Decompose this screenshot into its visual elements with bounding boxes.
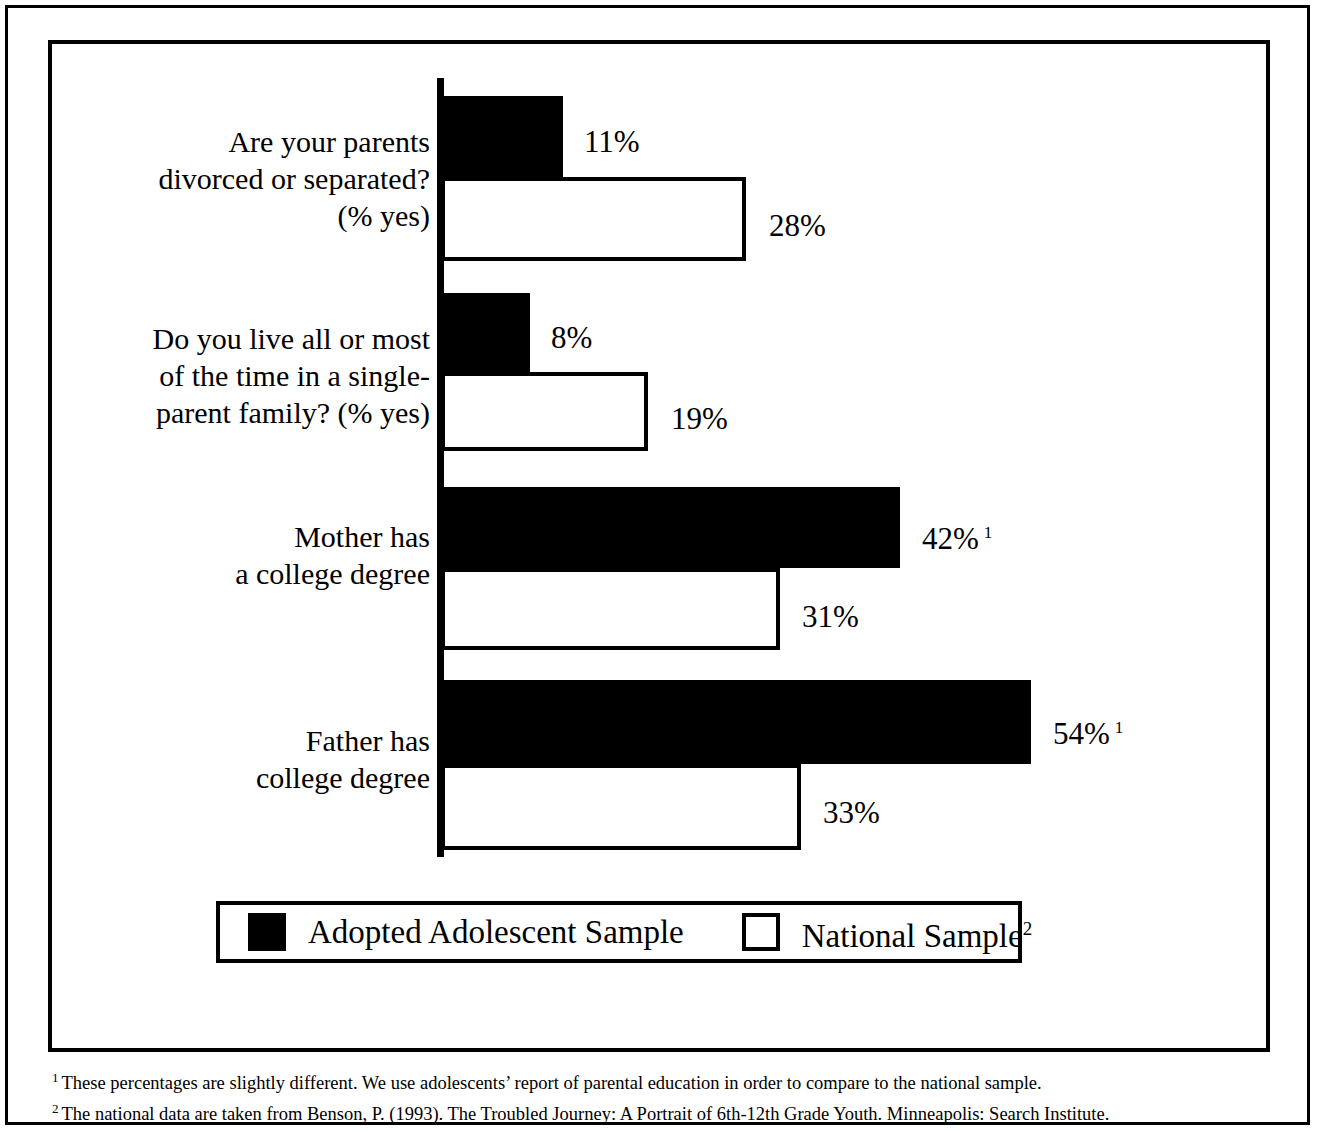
footnote-text: These percentages are slightly different… bbox=[62, 1073, 1042, 1093]
footnotes-block: 1These percentages are slightly differen… bbox=[52, 1065, 1302, 1127]
legend-label-national: National Sample2 bbox=[802, 912, 1032, 953]
category-label-line: parent family? (% yes) bbox=[100, 394, 430, 431]
bar-value-national-mother-college-degree: 31% bbox=[802, 601, 859, 632]
legend-item-adopted-adolescent-sample: Adopted Adolescent Sample bbox=[248, 913, 684, 951]
footnote-text: The national data are taken from Benson,… bbox=[62, 1104, 1110, 1124]
category-label-line: Do you live all or most bbox=[100, 320, 430, 357]
bar-value-text: 54% bbox=[1053, 716, 1110, 751]
bar-value-adopted-parents-divorced: 11% bbox=[584, 126, 640, 157]
bar-national-single-parent-family bbox=[441, 372, 648, 451]
category-label-line: Father has bbox=[100, 722, 430, 759]
category-label-line: Mother has bbox=[100, 518, 430, 555]
bar-value-adopted-single-parent-family: 8% bbox=[551, 322, 592, 353]
footnote-marker: 2 bbox=[52, 1101, 59, 1116]
bar-adopted-parents-divorced bbox=[441, 96, 563, 177]
legend-swatch-filled-icon bbox=[248, 913, 286, 951]
category-label-line: of the time in a single- bbox=[100, 357, 430, 394]
footnote-marker: 1 bbox=[1115, 718, 1124, 737]
bar-value-national-single-parent-family: 19% bbox=[671, 403, 728, 434]
footnote-1: 1These percentages are slightly differen… bbox=[52, 1065, 1302, 1096]
category-label-line: divorced or separated? bbox=[100, 160, 430, 197]
legend-item-national-sample: National Sample2 bbox=[742, 912, 1032, 953]
bar-value-adopted-mother-college-degree: 42%1 bbox=[922, 517, 992, 554]
category-label-line: a college degree bbox=[100, 555, 430, 592]
legend-label-adopted: Adopted Adolescent Sample bbox=[308, 916, 684, 949]
bar-value-adopted-father-college-degree: 54%1 bbox=[1053, 712, 1123, 749]
legend-swatch-hollow-icon bbox=[742, 913, 780, 951]
bar-adopted-mother-college-degree bbox=[441, 487, 900, 568]
bar-value-national-father-college-degree: 33% bbox=[823, 797, 880, 828]
footnote-marker: 2 bbox=[1023, 918, 1033, 939]
bar-national-father-college-degree bbox=[441, 764, 801, 850]
bar-adopted-single-parent-family bbox=[441, 293, 530, 372]
bar-value-national-parents-divorced: 28% bbox=[769, 210, 826, 241]
footnote-marker: 1 bbox=[984, 523, 993, 542]
bar-value-text: 42% bbox=[922, 521, 979, 556]
legend-label-national-text: National Sample bbox=[802, 918, 1023, 954]
footnote-marker: 1 bbox=[52, 1070, 59, 1085]
category-label-line: Are your parents bbox=[100, 123, 430, 160]
chart-legend: Adopted Adolescent Sample National Sampl… bbox=[216, 901, 1022, 963]
footnote-2: 2The national data are taken from Benson… bbox=[52, 1096, 1302, 1127]
category-label-line: college degree bbox=[100, 759, 430, 796]
bar-adopted-father-college-degree bbox=[441, 680, 1031, 764]
category-label-line: (% yes) bbox=[100, 197, 430, 234]
bar-national-mother-college-degree bbox=[441, 568, 780, 650]
figure-page: Are your parents divorced or separated? … bbox=[0, 0, 1321, 1132]
bar-national-parents-divorced bbox=[441, 177, 746, 261]
